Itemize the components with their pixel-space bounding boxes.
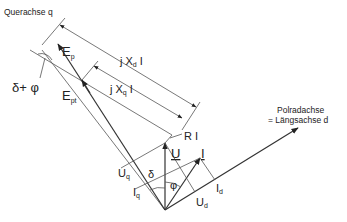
uq-projection (121, 143, 165, 168)
ri-segment (165, 135, 172, 143)
jxq-label: j Xq I (109, 83, 133, 97)
q-axis-line (42, 50, 165, 210)
phasor-diagram: Querachse q Polradachse = Längsachse d E… (0, 0, 347, 222)
angle-leader (40, 58, 45, 78)
jxq-dimension (94, 66, 182, 118)
ep-vector (58, 44, 165, 210)
jxd-label: j Xd I (119, 55, 143, 68)
ri-label: R I (184, 130, 198, 142)
delta-phi-label: δ+ φ (12, 80, 39, 95)
u-label: U (171, 146, 180, 161)
id-projection (200, 158, 215, 180)
ud-label: Ud (196, 196, 208, 209)
i-label: I (201, 146, 205, 161)
ept-marker (82, 80, 90, 93)
jxd-ext-bottom (182, 102, 200, 130)
ept-thin-line (30, 50, 172, 135)
d-axis-label-2: = Längsachse d (268, 115, 329, 125)
delta-label: δ (148, 168, 154, 180)
q-axis-label: Querachse q (4, 7, 53, 17)
ep-label: Ep (62, 44, 75, 61)
d-axis-label-1: Polradachse (277, 105, 325, 115)
phi-label: φ (170, 179, 177, 191)
jxq-ext-top (82, 61, 98, 80)
uq-label: Uq (118, 167, 130, 181)
ept-label: Ept (62, 88, 77, 105)
id-label: Id (216, 182, 223, 195)
jxd-ext-top (42, 18, 65, 45)
